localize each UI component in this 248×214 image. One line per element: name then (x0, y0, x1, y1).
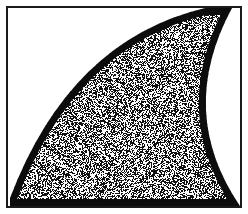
figure-container (0, 0, 248, 214)
stippled-crescent-figure (0, 0, 248, 214)
